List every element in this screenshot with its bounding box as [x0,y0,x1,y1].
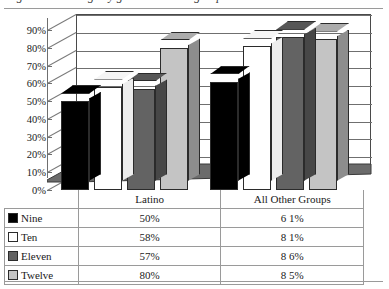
y-axis-tick [47,83,52,84]
table-header-row: Latino All Other Groups [5,190,364,209]
bar-side-face [337,30,349,181]
y-axis-tick [47,137,52,138]
y-axis-tick [47,172,52,173]
y-axis-tick [47,154,52,155]
bar-side-face [188,38,200,180]
bar-nine-latino [61,85,101,190]
y-axis-tick-label: 20% [27,149,46,160]
plot-area [47,10,389,190]
y-axis-tick [47,66,52,67]
table-corner-cell [5,190,79,209]
y-axis-tick [47,30,52,31]
legend-swatch-icon [8,251,18,261]
data-table: Latino All Other Groups Nine50%6 1%Ten58… [4,190,364,285]
table-row: Nine50%6 1% [5,209,364,228]
bar-top-face [210,66,250,75]
y-axis-tick-label: 70% [27,60,46,71]
data-table-wrapper: Latino All Other Groups Nine50%6 1%Ten58… [4,190,364,285]
bar-side-face [89,92,101,181]
y-axis-tick [47,101,52,102]
bar-side-face [155,79,167,180]
legend-label: Eleven [21,250,52,262]
bar-top-face [94,71,134,80]
bar-top-face [160,32,200,41]
cell-all-other-groups: 6 1% [221,209,364,228]
cell-all-other-groups: 8 1% [221,228,364,247]
cell-all-other-groups: 8 6% [221,247,364,266]
bottom-divider [4,281,383,282]
bar-chart: 0%10%20%30%40%50%60%70%80%90% [0,10,389,190]
legend-label: Ten [21,231,37,243]
bar-side-face [271,37,283,181]
legend-label: Nine [21,212,42,224]
bar-front-face [210,82,238,190]
bar-top-face [61,85,101,94]
bar-side-face [238,72,250,180]
bar-top-face [276,21,316,30]
legend-label: Twelve [21,269,53,281]
cell-latino: 57% [78,247,221,266]
y-axis-tick-label: 60% [27,78,46,89]
y-axis-tick [47,119,52,120]
legend-cell-ten: Ten [5,228,79,247]
table-header-latino: Latino [78,190,221,209]
table-row: Ten58%8 1% [5,228,364,247]
legend-cell-nine: Nine [5,209,79,228]
y-axis-tick [47,48,52,49]
y-axis-tick-label: 50% [27,96,46,107]
y-axis-tick-label: 40% [27,113,46,124]
top-divider [4,8,383,9]
cell-latino: 50% [78,209,221,228]
legend-swatch-icon [8,270,18,280]
table-row: Eleven57%8 6% [5,247,364,266]
y-axis-tick-label: 90% [27,25,46,36]
bar-nine-all-other-groups [210,66,250,190]
y-axis-tick-label: 10% [27,167,46,178]
y-axis-labels: 0%10%20%30%40%50%60%70%80%90% [0,10,46,190]
cell-latino: 58% [78,228,221,247]
figure-caption: Figure: Percentage by grade level and gr… [6,0,223,4]
bar-top-face [243,30,283,39]
table-body: Nine50%6 1%Ten58%8 1%Eleven57%8 6%Twelve… [5,209,364,285]
bar-front-face [61,101,89,190]
legend-swatch-icon [8,213,18,223]
y-axis-tick-label: 30% [27,131,46,142]
legend-cell-eleven: Eleven [5,247,79,266]
bar-side-face [122,78,134,181]
y-axis-tick-label: 80% [27,42,46,53]
table-header-all-other-groups: All Other Groups [221,190,364,209]
legend-swatch-icon [8,232,18,242]
bar-side-face [304,28,316,181]
bar-series-group [47,10,389,190]
